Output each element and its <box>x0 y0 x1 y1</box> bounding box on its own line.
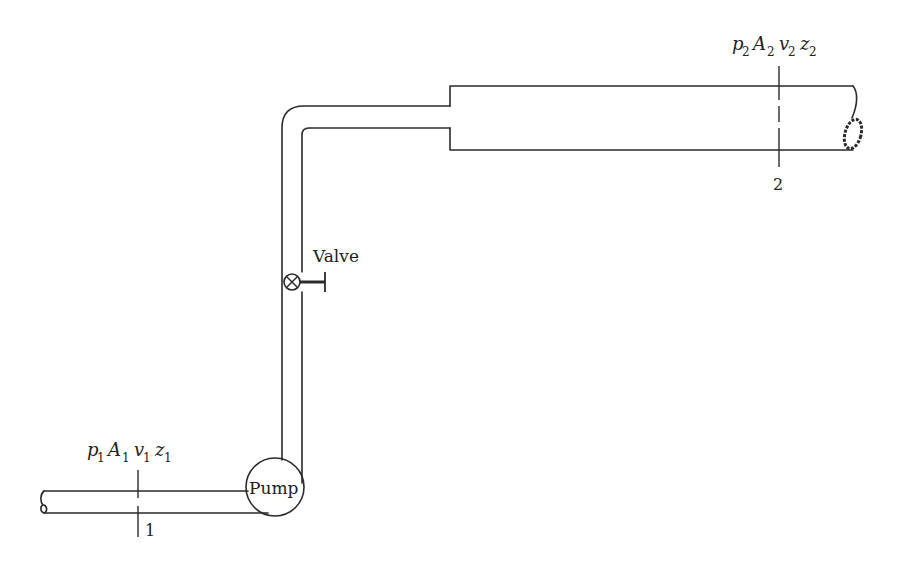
section-2-variables: p 2 A 2 v 2 z 2 <box>732 33 817 59</box>
svg-text:A: A <box>106 439 121 460</box>
section-1-number: 1 <box>145 521 155 540</box>
pipe-system-diagram: Pump Valve 1 2 p 1 A 1 v 1 z 1 p 2 A 2 v… <box>0 0 900 569</box>
section-2-number: 2 <box>773 175 783 194</box>
svg-text:1: 1 <box>122 451 130 465</box>
valve-label: Valve <box>312 246 359 266</box>
inlet-pipe <box>41 491 268 513</box>
pump-label: Pump <box>249 478 299 498</box>
svg-text:2: 2 <box>767 45 775 59</box>
svg-text:2: 2 <box>809 45 817 59</box>
svg-text:1: 1 <box>97 451 105 465</box>
outlet-pipe <box>450 86 865 151</box>
svg-text:2: 2 <box>742 45 750 59</box>
section-1-variables: p 1 A 1 v 1 z 1 <box>87 439 172 465</box>
svg-text:2: 2 <box>788 45 796 59</box>
svg-text:1: 1 <box>164 451 172 465</box>
svg-text:A: A <box>751 33 766 54</box>
valve-icon <box>284 272 325 292</box>
svg-text:1: 1 <box>143 451 151 465</box>
vertical-riser <box>282 106 450 483</box>
